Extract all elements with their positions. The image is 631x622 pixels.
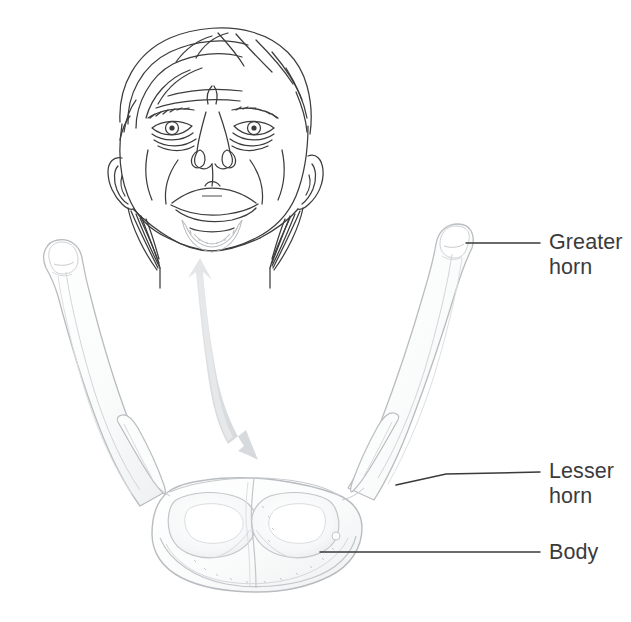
forehead-line — [156, 100, 240, 108]
submental-curve — [170, 238, 260, 251]
right-undereye-line — [232, 146, 268, 151]
hyoid-body-left-lobe-inner — [185, 504, 243, 544]
greater-horn-left-tip-highlight — [49, 242, 78, 274]
label-lesser-horn: Lesser horn — [549, 459, 614, 509]
columella — [212, 164, 213, 186]
right-eyebrow-hair — [272, 114, 277, 118]
hyoid-bone-figure: Greater horn Lesser horn Body — [0, 0, 631, 622]
hair-strand — [176, 36, 212, 62]
left-cheek-line — [146, 150, 152, 200]
position-indicator-arrow — [188, 258, 258, 460]
anatomical-illustration — [0, 0, 631, 622]
right-pupil — [251, 125, 256, 130]
glabella-line — [207, 86, 212, 104]
nose-bridge — [219, 112, 230, 152]
hyoid-tubercle — [332, 532, 340, 540]
right-eyebrow — [232, 108, 278, 118]
leader-line-lesser-horn — [396, 472, 540, 485]
right-scm-muscle — [273, 211, 300, 268]
left-undereye-line — [158, 146, 194, 151]
head-illustration — [108, 28, 323, 288]
left-nasolabial — [166, 160, 179, 204]
right-ear-inner — [306, 175, 310, 195]
right-nostril — [222, 150, 235, 168]
left-nostril — [191, 150, 204, 168]
hyoid-body-right-lobe-inner — [269, 504, 326, 544]
hyoid-bone — [44, 224, 474, 592]
right-cheek-line — [278, 150, 284, 200]
nose-tip — [215, 152, 232, 169]
left-pupil — [169, 125, 174, 130]
nose-tip — [195, 152, 212, 169]
nose-bridge — [197, 112, 206, 152]
label-greater-horn: Greater horn — [549, 230, 623, 280]
forehead-line — [168, 89, 242, 96]
hair-strand — [236, 34, 272, 72]
ghost-hyoid-inner — [194, 234, 230, 244]
greater-horn-right-tip-highlight — [440, 226, 469, 258]
right-nasolabial — [250, 160, 263, 204]
chin-crease — [190, 228, 234, 232]
label-body: Body — [549, 540, 598, 565]
mouth-line — [171, 204, 258, 215]
glabella-line — [214, 86, 217, 104]
